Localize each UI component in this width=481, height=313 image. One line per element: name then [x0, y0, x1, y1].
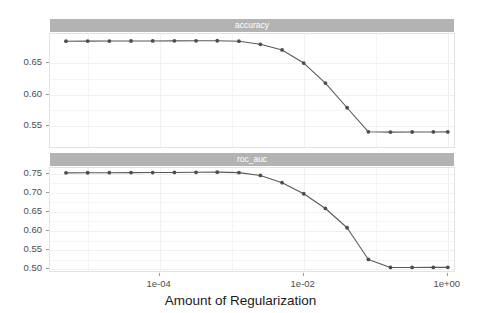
y-axis-tick-label: 0.50 [0, 263, 42, 273]
x-axis-tick-mark [159, 273, 160, 276]
panel-strip-roc-auc: roc_auc [49, 152, 455, 167]
data-point [237, 39, 241, 43]
data-point [151, 39, 155, 43]
x-axis-title: Amount of Regularization [0, 293, 481, 309]
y-axis-tick-mark [46, 249, 49, 250]
y-axis-tick-label: 0.55 [0, 120, 42, 130]
y-axis-tick-mark [46, 268, 49, 269]
x-axis-tick-mark [447, 273, 448, 276]
series-roc-auc [50, 168, 455, 272]
data-point [446, 130, 450, 134]
y-axis-tick-mark [46, 173, 49, 174]
data-point [215, 170, 219, 174]
data-point [86, 171, 90, 175]
data-point [129, 39, 133, 43]
y-axis-tick-label: 0.65 [0, 57, 42, 67]
data-point [410, 130, 414, 134]
y-axis-tick-label: 0.65 [0, 206, 42, 216]
data-point [172, 39, 176, 43]
data-point [64, 39, 68, 43]
data-point [172, 171, 176, 175]
data-point [258, 42, 262, 46]
data-point [389, 130, 393, 134]
series-line [66, 172, 448, 267]
x-axis-tick-label: 1e-04 [119, 278, 199, 289]
y-axis-tick-label: 0.55 [0, 244, 42, 254]
panel-strip-label-roc-auc: roc_auc [237, 154, 267, 164]
x-axis-tick-label: 1e+00 [407, 278, 481, 289]
y-axis-tick-mark [46, 125, 49, 126]
data-point [345, 226, 349, 230]
data-point [194, 170, 198, 174]
data-point [107, 39, 111, 43]
y-axis-tick-mark [46, 211, 49, 212]
panel-strip-label-accuracy: accuracy [235, 20, 269, 30]
data-point [280, 181, 284, 185]
data-point [280, 48, 284, 52]
panel-strip-accuracy: accuracy [49, 18, 455, 33]
plot-panel-roc-auc [49, 167, 455, 272]
y-axis-tick-label: 0.60 [0, 89, 42, 99]
data-point [324, 207, 328, 211]
y-axis-tick-label: 0.70 [0, 187, 42, 197]
facet-chart-figure: accuracy 0.550.600.65 roc_auc 0.500.550.… [0, 0, 481, 313]
y-axis-tick-label: 0.60 [0, 225, 42, 235]
y-axis-tick-mark [46, 192, 49, 193]
data-point [215, 39, 219, 43]
data-point [129, 171, 133, 175]
x-axis-tick-label: 1e-02 [263, 278, 343, 289]
data-point [302, 61, 306, 65]
data-point [302, 192, 306, 196]
data-point [431, 130, 435, 134]
y-axis-tick-mark [46, 230, 49, 231]
data-point [431, 265, 435, 269]
data-point [366, 258, 370, 262]
data-point [258, 174, 262, 178]
y-axis-tick-label: 0.75 [0, 168, 42, 178]
data-point [366, 130, 370, 134]
series-accuracy [50, 34, 455, 148]
data-point [324, 81, 328, 85]
data-point [151, 171, 155, 175]
y-axis-tick-mark [46, 94, 49, 95]
data-point [86, 39, 90, 43]
data-point [345, 106, 349, 110]
x-axis-tick-mark [303, 273, 304, 276]
data-point [64, 171, 68, 175]
data-point [194, 39, 198, 43]
data-point [237, 171, 241, 175]
data-point [389, 266, 393, 270]
data-point [107, 171, 111, 175]
series-line [66, 41, 448, 132]
y-axis-tick-mark [46, 62, 49, 63]
plot-panel-accuracy [49, 33, 455, 148]
data-point [410, 266, 414, 270]
data-point [446, 265, 450, 269]
